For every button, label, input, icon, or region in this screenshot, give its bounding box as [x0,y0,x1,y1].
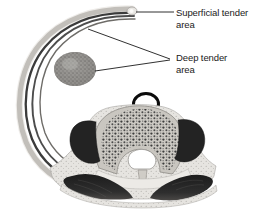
medical-illustration-figure: Superficial tender area Deep tender area [0,0,256,213]
anatomy-artwork [0,0,256,213]
vertebra-cross-section [50,105,217,208]
leader-line-deep-upper [88,29,170,59]
deep-tender-area-label: Deep tender area [176,52,227,75]
deep-label-line2: area [176,64,227,76]
leader-line-deep-lower [95,60,170,71]
deep-label-line1: Deep tender [176,52,227,63]
superficial-label-line2: area [176,19,248,31]
superficial-label-line1: Superficial tender [176,7,248,18]
superficial-tender-area-label: Superficial tender area [176,7,248,30]
leader-lines [88,12,174,71]
deep-tender-stipple-ellipse [54,52,96,86]
